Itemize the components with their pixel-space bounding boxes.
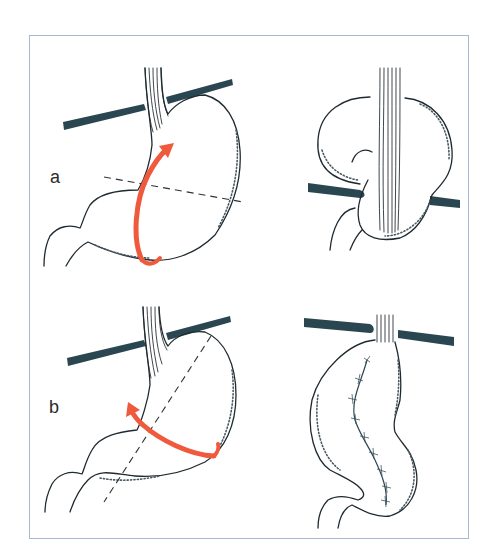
diaphragm-icon (166, 79, 233, 104)
esophagus-icon (143, 307, 167, 378)
diaphragm-icon (304, 318, 374, 333)
diaphragm-icon (67, 340, 146, 366)
diaphragm-icon (430, 196, 460, 208)
curved-arrow-left-icon (126, 402, 218, 456)
diaphragm-icon (63, 104, 146, 130)
diaphragm-icon (308, 183, 365, 198)
panel-a-right-folded-stomach (308, 68, 460, 250)
suture-line-icon (348, 356, 391, 507)
panel-a-left-stomach (44, 68, 243, 266)
esophagus-icon (145, 68, 168, 132)
esophagus-icon (379, 68, 400, 233)
esophagus-icon (377, 315, 393, 342)
curved-arrow-up-icon (136, 143, 174, 264)
diaphragm-icon (398, 330, 454, 346)
diaphragm-icon (166, 316, 231, 340)
panel-b-left-stomach (45, 307, 236, 512)
illustration-canvas (0, 0, 496, 556)
panel-b-right-sutured-stomach (304, 315, 454, 528)
